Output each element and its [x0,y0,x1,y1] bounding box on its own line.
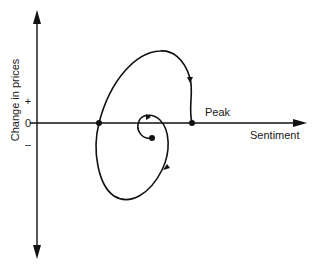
spiral-curve [96,51,192,200]
left-crossing-dot [96,120,102,126]
x-axis-label: Sentiment [250,129,300,141]
y-tick-plus: + [25,95,31,107]
direction-arrow-icon [187,77,193,83]
y-axis-up-arrow-icon [33,10,41,24]
equilibrium-dot [149,135,155,141]
y-axis-label: Change in prices [9,59,21,142]
peak-label: Peak [205,106,230,118]
y-axis-down-arrow-icon [33,245,41,259]
peak-dot [189,120,195,126]
y-tick-zero: 0 [25,117,31,129]
y-tick-minus: – [25,138,31,150]
x-axis-right-arrow-icon [293,119,307,127]
